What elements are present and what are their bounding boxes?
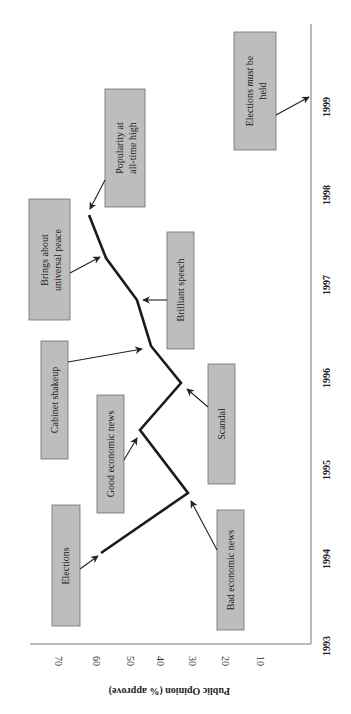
- tick-40: 40: [155, 656, 166, 666]
- annotation-cabinet-shakeup: Cabinet shakeup: [41, 341, 68, 459]
- approval-chart: 70 60 50 40 30 20 10 Public Opinion (% a…: [0, 0, 351, 714]
- svg-text:Popularity at: Popularity at: [114, 122, 125, 174]
- year-1993: 1993: [321, 636, 332, 656]
- arrow-universal-peace: [70, 257, 100, 273]
- tick-50: 50: [125, 656, 136, 666]
- annotation-elections-must-be-held: Elections must be held: [234, 32, 276, 150]
- year-1998: 1998: [321, 185, 332, 205]
- value-axis-title: Public Opinion (% approve): [109, 685, 230, 697]
- arrow-elections-must-be-held: [276, 97, 309, 115]
- tick-20: 20: [220, 656, 231, 666]
- year-1999: 1999: [321, 97, 332, 117]
- annotation-popularity-high: Popularity at all-time high: [105, 89, 145, 207]
- tick-70: 70: [53, 656, 64, 666]
- svg-text:Scandal: Scandal: [216, 408, 227, 440]
- arrow-bad-economic-news: [191, 501, 217, 550]
- value-tick-labels: 70 60 50 40 30 20 10: [53, 656, 266, 666]
- arrow-scandal: [187, 389, 208, 407]
- annotation-elections: Elections: [52, 505, 80, 626]
- tick-10: 10: [255, 656, 266, 666]
- svg-text:Elections: Elections: [60, 547, 71, 584]
- svg-text:Cabinet shakeup: Cabinet shakeup: [49, 367, 60, 433]
- svg-text:Brings about: Brings about: [39, 234, 50, 286]
- annotation-bad-economic-news: Bad economic news: [217, 510, 244, 630]
- arrow-cabinet-shakeup: [68, 349, 142, 362]
- annotation-scandal: Scandal: [208, 364, 235, 484]
- arrow-good-economic-news: [124, 438, 137, 460]
- tick-30: 30: [187, 656, 198, 666]
- svg-text:Brilliant speech: Brilliant speech: [175, 258, 186, 321]
- tick-60: 60: [91, 656, 102, 666]
- year-1994: 1994: [321, 549, 332, 569]
- svg-text:all-time high: all-time high: [127, 122, 138, 173]
- svg-text:held: held: [257, 82, 268, 99]
- svg-text:Bad economic news: Bad economic news: [225, 530, 236, 611]
- svg-text:Elections must be: Elections must be: [244, 55, 255, 126]
- arrow-elections: [80, 556, 98, 569]
- year-1996: 1996: [321, 368, 332, 388]
- arrow-popularity-high: [90, 180, 105, 209]
- svg-text:universal peace: universal peace: [52, 228, 63, 290]
- annotation-good-economic-news: Good economic news: [97, 395, 124, 513]
- year-1997: 1997: [321, 275, 332, 295]
- annotation-brilliant-speech: Brilliant speech: [167, 232, 194, 349]
- year-1995: 1995: [321, 460, 332, 480]
- year-tick-labels: 1993 1994 1995 1996 1997 1998 1999: [321, 97, 332, 656]
- svg-text:Good economic news: Good economic news: [105, 411, 116, 498]
- annotation-universal-peace: Brings about universal peace: [29, 199, 70, 320]
